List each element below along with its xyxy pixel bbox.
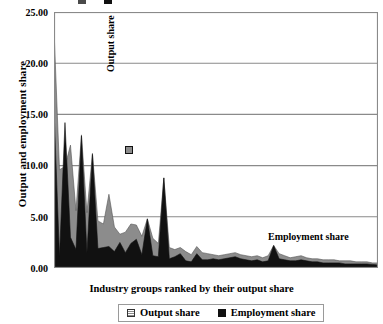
legend-label-output-share: Output share (140, 307, 200, 318)
y-tick-5: 5.00 (12, 213, 48, 223)
figure-container: Output and employment share 25.00 20.00 … (0, 0, 383, 324)
area-chart (54, 12, 378, 268)
y-tick-10: 10.00 (12, 161, 48, 171)
clipped-legend-remnant (78, 0, 124, 6)
annotation-employment-share: Employment share (268, 231, 349, 242)
legend-swatch-employment-share-icon (218, 309, 226, 317)
y-tick-0: 0.00 (12, 264, 48, 274)
legend-item-employment-share: Employment share (218, 307, 316, 318)
annotation-output-share: Output share (105, 15, 116, 72)
x-axis-label: Industry groups ranked by their output s… (0, 283, 383, 294)
legend-swatch-output-share-icon (127, 309, 135, 317)
annotation-output-share-marker-icon (125, 146, 133, 154)
plot-area: Output share Employment share (54, 12, 378, 268)
clipped-swatch-employment-icon (104, 0, 112, 4)
clipped-swatch-output-icon (78, 0, 86, 4)
y-tick-25: 25.00 (12, 8, 48, 18)
y-axis-tick-labels: 25.00 20.00 15.00 10.00 5.00 0.00 (8, 0, 48, 324)
y-tick-15: 15.00 (12, 110, 48, 120)
y-tick-20: 20.00 (12, 59, 48, 69)
legend-label-employment-share: Employment share (231, 307, 316, 318)
legend-item-output-share: Output share (127, 307, 200, 318)
chart-legend: Output share Employment share (118, 304, 324, 322)
